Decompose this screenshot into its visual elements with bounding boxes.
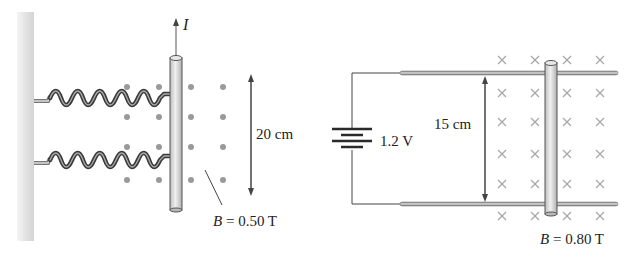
rail-top — [400, 71, 618, 75]
field-symbol-left: B — [213, 213, 222, 229]
wall — [17, 12, 34, 241]
rail-bottom — [400, 202, 618, 206]
field-label-left: B = 0.50 T — [213, 214, 277, 229]
dimension-label-20cm: 20 cm — [256, 127, 293, 142]
spring-bottom — [34, 153, 179, 167]
rod-left — [170, 56, 182, 213]
field-value-left: = 0.50 T — [226, 213, 277, 229]
left-panel — [17, 12, 251, 241]
physics-diagram — [0, 0, 633, 258]
field-symbol-right: B — [540, 231, 549, 247]
rails — [400, 71, 618, 206]
rod-right — [545, 61, 557, 217]
field-value-right: = 0.80 T — [553, 231, 604, 247]
dimension-label-15cm: 15 cm — [434, 117, 471, 132]
battery-icon — [332, 129, 372, 147]
current-label: I — [183, 17, 188, 33]
field-leader-line — [205, 170, 222, 205]
field-label-right: B = 0.80 T — [540, 232, 604, 247]
spring-top — [34, 91, 179, 105]
right-panel — [332, 56, 618, 220]
battery-label: 1.2 V — [380, 134, 413, 149]
